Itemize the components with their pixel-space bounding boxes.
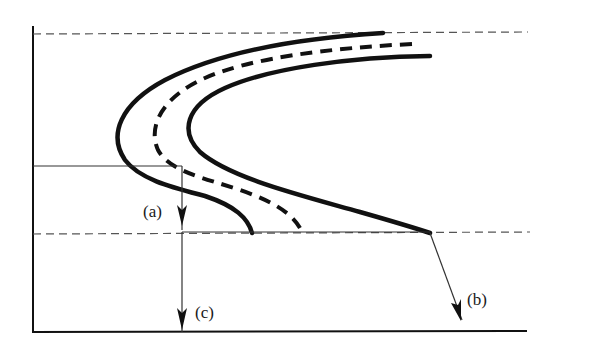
diagram-canvas: (a) (c) (b) <box>0 0 595 347</box>
label-a: (a) <box>143 202 162 221</box>
bottom-axis <box>33 331 527 332</box>
top-dashed-guide <box>33 32 528 34</box>
label-c: (c) <box>195 303 214 322</box>
label-b: (b) <box>467 290 487 309</box>
